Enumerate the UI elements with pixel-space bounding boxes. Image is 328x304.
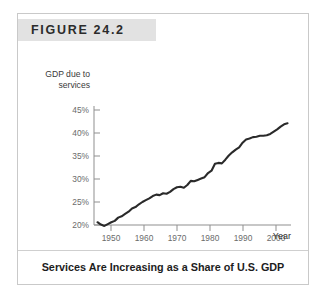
figure-caption: Services Are Increasing as a Share of U.… (18, 261, 308, 273)
y-tick-label-30: 30% (72, 174, 89, 184)
x-axis-title: Year (273, 231, 291, 241)
y-axis-ticks (94, 110, 100, 225)
caption-divider (18, 250, 308, 251)
y-tick-label-25: 25% (72, 197, 89, 207)
x-axis-title-wrap: Year (18, 228, 308, 244)
figure-label: FIGURE 24.2 (31, 23, 125, 37)
figure-card: FIGURE 24.2 GDP due to services 45% 40% … (17, 13, 309, 285)
y-axis-label-line1: GDP due to (45, 69, 90, 79)
data-series-line (97, 123, 287, 226)
y-tick-label-45: 45% (72, 105, 89, 115)
y-tick-label-35: 35% (72, 151, 89, 161)
chart-plot-area: GDP due to services 45% 40% 35% 30% 25% … (18, 44, 308, 244)
y-axis-tick-labels: 45% 40% 35% 30% 25% 20% (72, 105, 89, 230)
y-axis-label-line2: services (58, 80, 90, 90)
y-tick-label-40: 40% (72, 128, 89, 138)
